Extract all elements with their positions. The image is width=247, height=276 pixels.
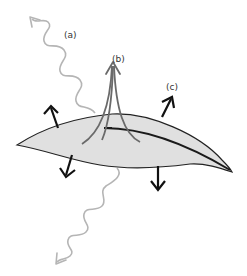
leaf-energy-diagram: (a) (b) (c) — [0, 0, 247, 276]
label-a: (a) — [64, 30, 77, 40]
label-c: (c) — [166, 82, 178, 92]
wave-downward — [56, 168, 119, 264]
wave-a-arrowhead-icon — [30, 17, 40, 27]
wave-a-upward — [30, 17, 95, 113]
label-b: (b) — [112, 54, 125, 64]
